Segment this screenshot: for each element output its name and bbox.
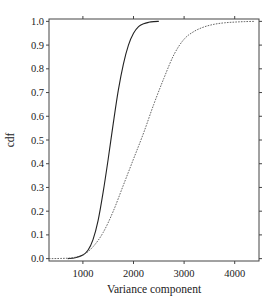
plot-frame	[49, 19, 259, 261]
series-line-dotted	[49, 21, 255, 258]
y-tick-label: 0.7	[31, 87, 44, 98]
y-tick-label: 0.6	[31, 111, 44, 122]
y-tick-label: 0.9	[31, 40, 44, 51]
x-tick-label: 4000	[224, 268, 245, 279]
series-line-solid	[68, 21, 159, 258]
y-axis-label: cdf	[4, 132, 16, 147]
y-axis-ticks: 0.00.10.20.30.40.50.60.70.80.91.0	[31, 16, 262, 264]
series-layer	[49, 21, 255, 258]
x-axis-label: Variance component	[107, 283, 202, 296]
y-tick-label: 1.0	[31, 16, 44, 27]
cdf-chart: 0.00.10.20.30.40.50.60.70.80.91.0 100020…	[0, 0, 276, 305]
y-tick-label: 0.0	[31, 253, 44, 264]
y-tick-label: 0.5	[31, 135, 44, 146]
y-tick-label: 0.8	[31, 63, 44, 74]
y-tick-label: 0.4	[31, 158, 45, 169]
x-tick-label: 2000	[123, 268, 144, 279]
y-tick-label: 0.3	[31, 182, 44, 193]
y-tick-label: 0.1	[31, 229, 44, 240]
x-tick-label: 1000	[72, 268, 93, 279]
y-tick-label: 0.2	[31, 206, 44, 217]
x-tick-label: 3000	[174, 268, 195, 279]
